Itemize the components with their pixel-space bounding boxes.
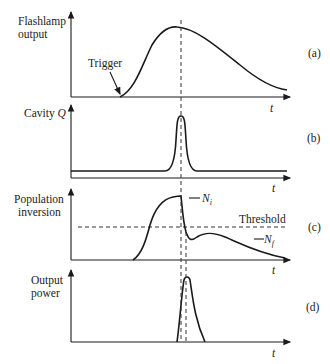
flashlamp-curve (120, 27, 287, 97)
trigger-arrow-icon (110, 72, 120, 94)
ylabel-a-line1: Flashlamp (18, 15, 66, 28)
q-switch-timing-diagram: Flashlamp output Trigger (a) t Cavity Q … (0, 0, 330, 364)
xlabel-b: t (272, 182, 276, 194)
ylabel-d-line1: Output (31, 274, 64, 287)
ylabel-a-line2: output (18, 28, 48, 41)
panel-b-cavity-q: Cavity Q (b) t (24, 105, 321, 194)
panel-tag-d: (d) (306, 301, 320, 314)
ylabel-b: Cavity Q (24, 107, 67, 120)
xlabel-d: t (272, 347, 276, 359)
xlabel-a: t (270, 102, 274, 114)
panel-tag-b: (b) (307, 132, 321, 145)
ylabel-d-line2: power (31, 287, 60, 300)
panel-tag-c: (c) (308, 221, 321, 234)
panel-tag-a: (a) (308, 47, 321, 60)
panel-c-population-inversion: Population inversion Ni Threshold Nf (c)… (14, 189, 321, 276)
panel-d-output-power: Output power (d) t (31, 270, 320, 359)
panel-a-flashlamp-output: Flashlamp output Trigger (a) t (18, 12, 321, 114)
threshold-label: Threshold (239, 213, 286, 225)
cavity-q-curve (71, 116, 287, 171)
ni-label: Ni (201, 192, 212, 207)
ylabel-c-line1: Population (14, 193, 64, 206)
ylabel-c-line2: inversion (18, 206, 61, 218)
nf-label: Nf (263, 233, 276, 248)
trigger-label: Trigger (88, 57, 122, 70)
xlabel-c: t (272, 264, 276, 276)
